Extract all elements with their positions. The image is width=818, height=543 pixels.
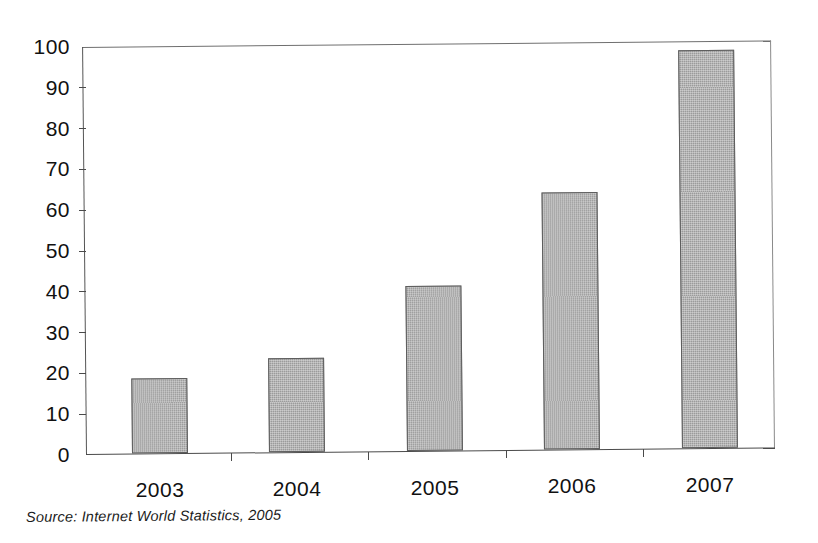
y-axis-tick-label: 0	[58, 443, 70, 467]
bar-2005	[405, 285, 463, 451]
y-axis-tick-mark	[79, 373, 86, 374]
x-axis-tick-mark	[231, 453, 232, 461]
y-axis-tick-mark	[79, 169, 86, 170]
x-axis-tick-mark	[506, 450, 507, 458]
y-axis-tick-mark	[79, 210, 86, 211]
y-axis-tick-mark	[79, 291, 86, 292]
y-axis-tick-label: 30	[46, 321, 70, 345]
bar-chart-figure: 0102030405060708090100 20032004200520062…	[0, 0, 818, 543]
y-axis-tick-label: 50	[46, 239, 70, 263]
x-axis-tick-label: 2003	[136, 478, 185, 502]
bar-2004	[268, 358, 325, 452]
y-axis-tick-label: 10	[46, 402, 70, 426]
y-axis-tick-label: 70	[46, 157, 70, 181]
y-axis-tick-label: 100	[33, 35, 70, 59]
y-axis: 0102030405060708090100	[0, 0, 86, 543]
y-axis-tick-mark	[79, 251, 86, 252]
source-note: Source: Internet World Statistics, 2005	[26, 507, 281, 525]
bar-2003	[131, 378, 188, 454]
plot-border-right	[770, 40, 775, 448]
y-axis-tick-label: 60	[46, 198, 70, 222]
y-axis-tick-mark	[79, 87, 86, 88]
y-axis-tick-label: 90	[46, 76, 70, 100]
y-axis-tick-label: 40	[46, 280, 70, 304]
y-axis-tick-mark	[79, 128, 86, 129]
y-axis-tick-label: 80	[46, 117, 70, 141]
y-axis-tick-mark	[79, 332, 86, 333]
y-axis-tick-label: 20	[46, 361, 70, 385]
plot-area	[82, 40, 775, 455]
bar-2007	[678, 50, 738, 448]
x-axis-tick-label: 2006	[548, 474, 597, 498]
x-axis-tick-mark	[368, 452, 369, 460]
plot-border-top	[82, 40, 771, 48]
x-axis-tick-mark	[643, 449, 644, 457]
x-axis-tick-label: 2004	[273, 477, 322, 501]
y-axis-tick-mark	[79, 414, 86, 415]
bar-2006	[542, 192, 600, 450]
x-axis-tick-label: 2007	[686, 473, 735, 497]
x-axis-tick-label: 2005	[411, 476, 460, 500]
